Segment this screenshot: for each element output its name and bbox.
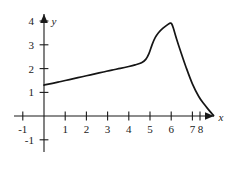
xtick-label-5: 5 <box>147 123 153 135</box>
xtick-label-1: 1 <box>62 123 68 135</box>
xtick-label-8: 8 <box>198 123 204 135</box>
xtick-label-4: 4 <box>126 123 132 135</box>
x-axis-label: x <box>218 111 224 123</box>
ytick-label-4: 4 <box>29 15 35 27</box>
y-axis-label: y <box>51 15 57 27</box>
ytick-label-2: 2 <box>29 63 35 75</box>
plot-canvas: -1 1 2 3 4 5 6 7 8 4 3 2 1 -1 x y <box>0 0 249 169</box>
xtick-label-7: 7 <box>190 123 196 135</box>
ytick-label-3: 3 <box>29 39 35 51</box>
graph-figure: -1 1 2 3 4 5 6 7 8 4 3 2 1 -1 x y <box>0 0 249 169</box>
xtick-label-6: 6 <box>168 123 174 135</box>
y-axis-arrow-icon <box>40 14 48 23</box>
xtick-label-2: 2 <box>84 123 90 135</box>
xtick-label-3: 3 <box>105 123 111 135</box>
ytick-label-neg1: -1 <box>25 134 34 146</box>
data-curve <box>44 23 214 116</box>
ytick-label-1: 1 <box>29 86 35 98</box>
